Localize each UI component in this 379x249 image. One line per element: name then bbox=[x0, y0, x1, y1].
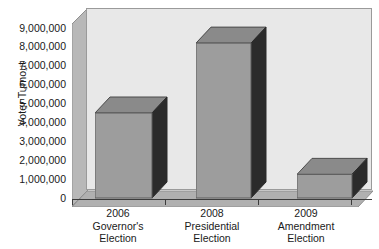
y-axis-tick-label: 3,000,000 bbox=[8, 136, 66, 147]
y-axis-tick-label: 4,000,000 bbox=[8, 117, 66, 128]
bar bbox=[297, 8, 369, 200]
category-label-line: Governor's bbox=[68, 220, 168, 233]
x-axis-tick-mark bbox=[72, 199, 73, 205]
x-axis-category-label: 2008PresidentialElection bbox=[162, 207, 262, 245]
category-label-line: 2006 bbox=[68, 207, 168, 220]
bar-faces bbox=[95, 8, 169, 200]
y-axis-tick-label: 5,000,000 bbox=[8, 98, 66, 109]
bar-faces bbox=[196, 8, 268, 200]
category-label-line: Election bbox=[256, 232, 356, 245]
category-label-line: 2009 bbox=[256, 207, 356, 220]
category-label-line: 2008 bbox=[162, 207, 262, 220]
category-label-line: Election bbox=[162, 232, 262, 245]
bar-side-face bbox=[152, 97, 167, 198]
x-axis-tick-mark bbox=[165, 199, 166, 205]
voter-turnout-bar-chart: Voter Turnout 01,000,0002,000,0003,000,0… bbox=[0, 0, 379, 249]
bar bbox=[196, 8, 268, 200]
bar-side-face bbox=[251, 27, 266, 198]
plot-area bbox=[72, 8, 372, 206]
y-axis-tick-label: 1,000,000 bbox=[8, 174, 66, 185]
y-axis-tick-label: 0 bbox=[8, 193, 66, 204]
x-axis-baseline bbox=[72, 199, 372, 200]
bar-front-face bbox=[196, 43, 251, 198]
y-axis-tick-label: 9,000,000 bbox=[8, 23, 66, 34]
y-axis-tick-label: 2,000,000 bbox=[8, 155, 66, 166]
bar-front-face bbox=[95, 113, 152, 198]
y-axis-tick-label: 7,000,000 bbox=[8, 60, 66, 71]
x-axis-tick-mark bbox=[351, 199, 352, 205]
x-axis-tick-mark bbox=[258, 199, 259, 205]
bar bbox=[95, 8, 169, 200]
category-label-line: Amendment bbox=[256, 220, 356, 233]
category-label-line: Presidential bbox=[162, 220, 262, 233]
bar-front-face bbox=[297, 174, 352, 198]
y-axis-tick-labels: 01,000,0002,000,0003,000,0004,000,0005,0… bbox=[8, 0, 66, 249]
bar-faces bbox=[297, 8, 369, 200]
x-axis-category-label: 2006Governor'sElection bbox=[68, 207, 168, 245]
x-axis-category-label: 2009AmendmentElection bbox=[256, 207, 356, 245]
y-axis-tick-label: 8,000,000 bbox=[8, 41, 66, 52]
category-label-line: Election bbox=[68, 232, 168, 245]
y-axis-tick-label: 6,000,000 bbox=[8, 79, 66, 90]
